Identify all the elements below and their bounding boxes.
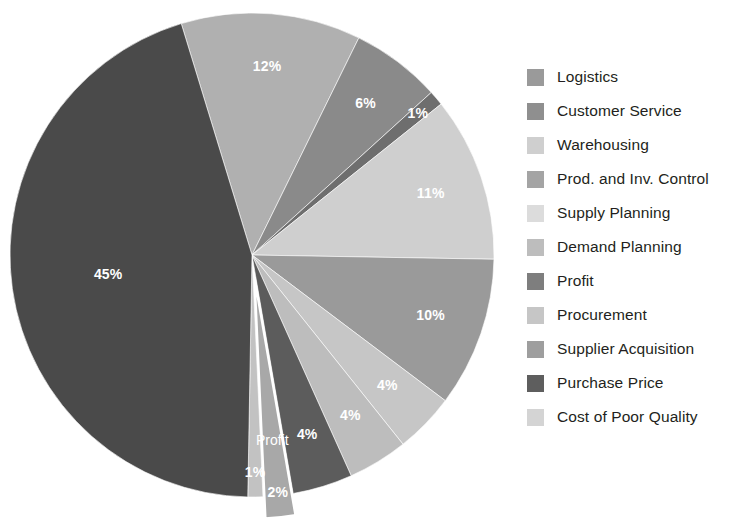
legend-color-swatch <box>527 171 544 188</box>
legend-item[interactable]: Demand Planning <box>527 230 744 264</box>
pie-slice-percent-label: 1% <box>408 105 429 121</box>
legend-color-swatch <box>527 375 544 392</box>
legend-color-swatch <box>527 307 544 324</box>
pie-slice-percent-label: 4% <box>297 426 318 442</box>
pie-slice-percent-label: 12% <box>253 58 282 74</box>
legend-item-label: Prod. and Inv. Control <box>557 170 709 188</box>
legend-item[interactable]: Warehousing <box>527 128 744 162</box>
legend-color-swatch <box>527 273 544 290</box>
legend-color-swatch <box>527 205 544 222</box>
pie-slice-group <box>10 13 494 519</box>
legend-item[interactable]: Procurement <box>527 298 744 332</box>
legend-item-label: Logistics <box>557 68 618 86</box>
legend-item-label: Profit <box>557 272 594 290</box>
legend-item-label: Supply Planning <box>557 204 671 222</box>
legend-item[interactable]: Customer Service <box>527 94 744 128</box>
pie-slice-percent-label: 4% <box>377 377 398 393</box>
legend-item[interactable]: Logistics <box>527 60 744 94</box>
pie-slice-percent-label: 11% <box>417 185 445 201</box>
legend-color-swatch <box>527 137 544 154</box>
legend-item-label: Supplier Acquisition <box>557 340 694 358</box>
legend-color-swatch <box>527 341 544 358</box>
legend-item-label: Warehousing <box>557 136 649 154</box>
pie-slice-percent-label: 45% <box>94 266 123 282</box>
legend-item[interactable]: Supplier Acquisition <box>527 332 744 366</box>
legend-color-swatch <box>527 69 544 86</box>
legend-item-label: Customer Service <box>557 102 682 120</box>
pie-slice-percent-label: 4% <box>340 407 361 423</box>
legend-item[interactable]: Purchase Price <box>527 366 744 400</box>
pie-chart-figure: 12%6%1%11%10%4%4%4%2%Profit1%45% Logisti… <box>0 0 744 520</box>
pie-slice-percent-label: 6% <box>355 95 376 111</box>
legend-item-label: Procurement <box>557 306 647 324</box>
pie-slice-percent-label: 10% <box>416 307 445 323</box>
legend-color-swatch <box>527 239 544 256</box>
pie-slice-percent-label: 1% <box>245 464 266 480</box>
pie-slice-percent-label: 2% <box>268 484 289 500</box>
legend-item-label: Demand Planning <box>557 238 682 256</box>
legend-item[interactable]: Supply Planning <box>527 196 744 230</box>
pie-slice-name-annotation: Profit <box>256 432 289 448</box>
pie-svg: 12%6%1%11%10%4%4%4%2%Profit1%45% <box>0 0 512 520</box>
legend-item-label: Cost of Poor Quality <box>557 408 698 426</box>
chart-legend: LogisticsCustomer ServiceWarehousingProd… <box>527 60 744 434</box>
pie-plot-area: 12%6%1%11%10%4%4%4%2%Profit1%45% <box>0 0 512 520</box>
legend-item[interactable]: Prod. and Inv. Control <box>527 162 744 196</box>
legend-item[interactable]: Profit <box>527 264 744 298</box>
legend-color-swatch <box>527 103 544 120</box>
legend-color-swatch <box>527 409 544 426</box>
legend-item-label: Purchase Price <box>557 374 664 392</box>
legend-item[interactable]: Cost of Poor Quality <box>527 400 744 434</box>
